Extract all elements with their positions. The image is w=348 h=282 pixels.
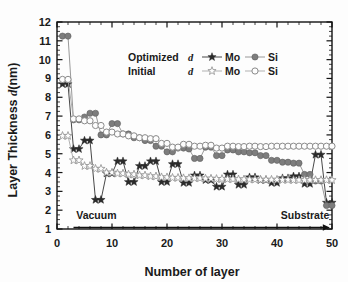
data-point [65,33,71,39]
legend-row-optimized-symbol: d [188,52,194,63]
legend-row-initial-entry-marker [252,68,258,74]
y-tick-label: 9 [45,72,51,84]
legend-row-optimized-entry-label: Si [268,51,278,63]
x-tick-label: 10 [106,237,118,249]
x-axis-title: Number of layer [144,265,239,279]
y-axis-title: Layer Thickness d(nm) [6,63,20,198]
data-point [263,153,269,159]
data-point [296,160,302,166]
data-point [329,143,335,149]
legend-row-initial-entry-label: Mo [225,65,240,77]
x-tick-label: 50 [326,237,338,249]
y-tick-label: 2 [45,204,51,216]
layer-thickness-chart: 123456789101112 01020304050 VacuumSubstr… [0,0,348,282]
y-tick-label: 7 [45,110,51,122]
x-tick-label: 0 [54,237,60,249]
y-tick-label: 10 [39,54,51,66]
legend-row-initial-entry-label: Si [268,65,278,77]
data-point [164,140,170,146]
data-point [98,122,104,128]
data-point [285,159,291,165]
data-point [65,76,71,82]
legend-row-initial-symbol: d [188,66,194,77]
data-point [153,136,159,142]
legend-row-initial-group-label: Initial [128,65,156,77]
data-point [219,153,225,159]
x-tick-label: 40 [271,237,283,249]
substrate-label: Substrate [281,209,330,221]
vacuum-label: Vacuum [76,209,116,221]
x-tick-label: 20 [161,237,173,249]
y-tick-label: 8 [45,91,51,103]
data-point [197,155,203,161]
x-tick-label: 30 [216,237,228,249]
y-tick-label: 3 [45,185,51,197]
chart-figure: 123456789101112 01020304050 VacuumSubstr… [0,0,348,282]
y-tick-label: 4 [45,167,52,179]
y-tick-label: 12 [39,16,51,28]
legend-row-optimized-group-label: Optimized [128,51,179,63]
legend-row-optimized-entry-label: Mo [225,51,240,63]
data-point [329,202,335,208]
y-tick-label: 11 [39,35,51,47]
data-point [87,118,93,124]
y-tick-label: 6 [45,129,51,141]
data-point [114,121,120,127]
y-tick-label: 5 [45,148,51,160]
y-tick-label: 1 [45,223,51,235]
data-point [92,110,98,116]
chart-background [0,0,348,282]
legend-row-optimized-entry-marker [252,54,258,60]
